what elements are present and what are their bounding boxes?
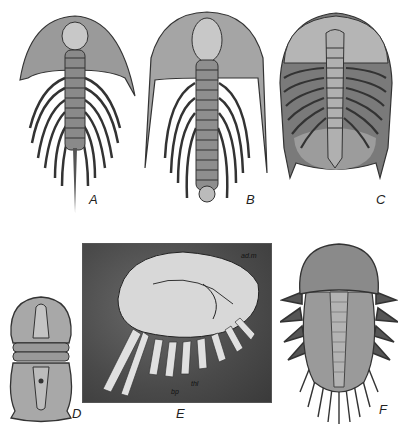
annotation-thl: thl [191, 380, 199, 387]
panel-label-f: F [379, 402, 387, 417]
annotation-bp: bp [171, 388, 179, 396]
panel-label-b: B [246, 192, 255, 207]
trilobite-a-illustration [10, 8, 140, 213]
panel-label-c: C [376, 192, 385, 207]
trilobite-f-illustration [280, 242, 398, 424]
trilobite-d-illustration [7, 293, 75, 423]
trilobite-e-fossil-photo: thl bp ad.m [82, 243, 272, 403]
panel-label-e: E [176, 406, 185, 421]
panel-label-a: A [89, 192, 98, 207]
trilobite-c-illustration [276, 8, 394, 183]
trilobite-b-illustration [143, 8, 271, 208]
panel-label-d: D [72, 406, 81, 421]
annotation-adm: ad.m [241, 252, 257, 259]
